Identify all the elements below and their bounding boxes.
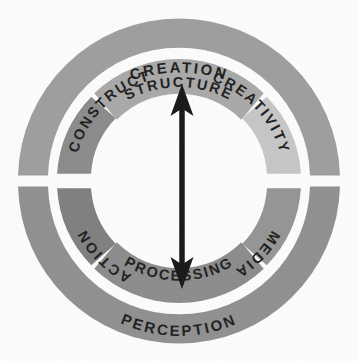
cycle-wheel-diagram: CREATION PERCEPTION STRUCTURE CREATIVITY… bbox=[0, 0, 358, 361]
canvas-background bbox=[0, 0, 358, 361]
diagram-root: CREATION PERCEPTION STRUCTURE CREATIVITY… bbox=[0, 0, 358, 361]
